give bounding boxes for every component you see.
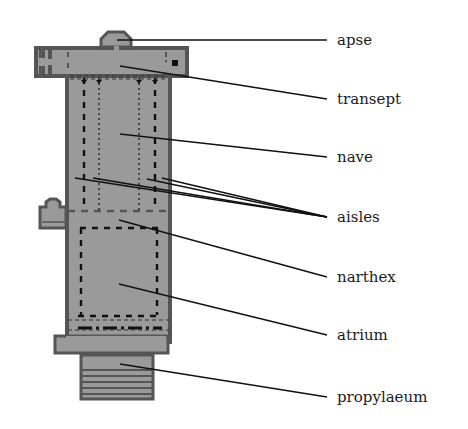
label-apse: apse <box>337 31 372 49</box>
label-aisles: aisles <box>337 208 380 226</box>
transept-pier <box>165 52 167 57</box>
transept-pier <box>67 63 69 68</box>
transept-end-wall-left <box>48 50 52 59</box>
basilica-plan-diagram: apse transept nave aisles narthex atrium… <box>0 0 468 429</box>
entrance-platform-inner <box>66 336 166 342</box>
transept-pier <box>67 52 69 57</box>
crossing <box>69 62 168 74</box>
label-propylaeum: propylaeum <box>337 388 427 406</box>
transept-end-wall-left <box>48 65 52 74</box>
label-transept: transept <box>337 90 401 108</box>
label-atrium: atrium <box>337 326 388 344</box>
leader-aisles <box>162 178 327 217</box>
label-nave: nave <box>337 148 373 166</box>
transept-end-wall-left <box>39 50 45 58</box>
transept-block <box>172 60 178 66</box>
transept-end-wall-left <box>39 66 45 74</box>
label-narthex: narthex <box>337 268 396 286</box>
apse-opening <box>114 46 119 50</box>
side-chapel <box>40 199 66 228</box>
